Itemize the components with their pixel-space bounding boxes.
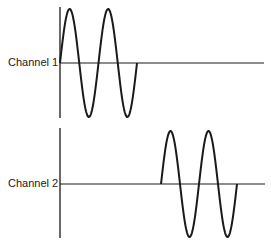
channel-2-trace xyxy=(60,128,265,238)
channel-timing-diagram xyxy=(0,0,271,250)
channel-1-trace xyxy=(60,7,264,118)
